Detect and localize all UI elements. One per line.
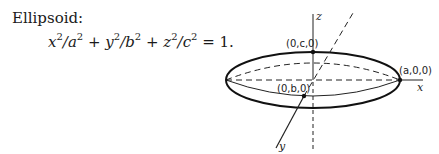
point-front bbox=[302, 94, 306, 98]
label-z-axis: z bbox=[315, 10, 322, 23]
point-top bbox=[311, 50, 315, 54]
label-right: (a,0,0) bbox=[399, 65, 432, 76]
label-front: (0,b,0) bbox=[277, 83, 310, 94]
label-top: (0,c,0) bbox=[286, 38, 318, 49]
point-right bbox=[398, 78, 402, 82]
label-y-axis: y bbox=[278, 140, 286, 153]
label-x-axis: x bbox=[417, 81, 424, 94]
ellipsoid-diagram: (0,c,0) (a,0,0) (0,b,0) z x y bbox=[0, 0, 439, 154]
